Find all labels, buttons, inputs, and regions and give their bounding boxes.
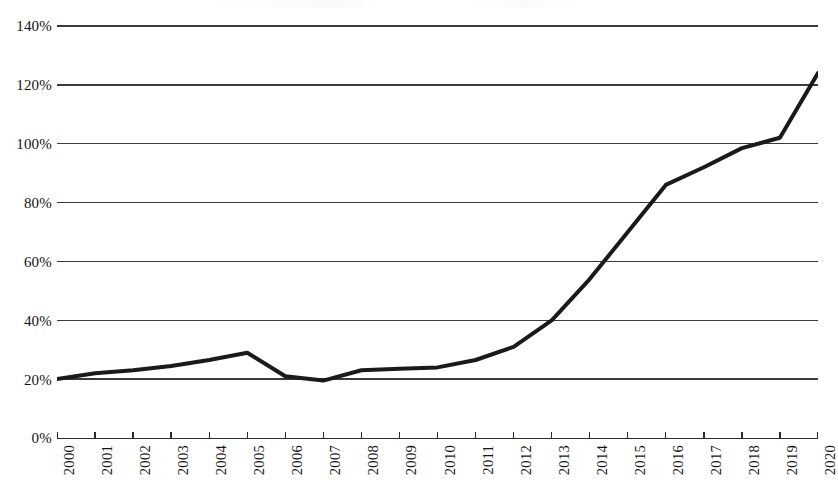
x-axis-tick-label-text: 2011 [481,445,496,475]
x-axis-tick-label: 2017 [709,445,724,475]
x-axis-tick-label: 2000 [62,445,77,475]
x-axis-tick-label: 2009 [404,445,419,475]
y-axis-tick-labels: 140% 120% 100% 80% 60% 40% 20% 0% [0,0,52,498]
x-axis-tick-labels: 2000200120022003200420052006200720082009… [57,441,818,498]
x-axis-tick-label: 2003 [176,445,191,475]
x-axis-tick-label-text: 2014 [595,445,610,475]
x-axis-tick-label-text: 2020 [823,445,838,475]
x-axis-tick-label: 2015 [633,445,648,475]
x-axis-tick-label-text: 2008 [366,445,381,475]
x-axis-tick-label-text: 2009 [404,445,419,475]
x-axis-line [57,20,818,440]
scan-artifact [200,0,650,8]
y-axis-tick-label: 120% [4,78,52,93]
x-axis-tick-label-text: 2006 [290,445,305,475]
x-axis-tick-label: 2007 [328,445,343,475]
x-axis-tick-label: 2019 [785,445,800,475]
x-axis-tick-label: 2002 [138,445,153,475]
x-axis-tick-label: 2013 [557,445,572,475]
y-axis-tick-label: 40% [4,314,52,329]
plot-area [57,20,818,440]
y-axis-tick-label: 0% [4,431,52,446]
x-axis-tick-label-text: 2010 [443,445,458,475]
x-axis-tick-label-text: 2012 [519,445,534,475]
x-axis-tick-label-text: 2018 [747,445,762,475]
x-axis-tick-label-text: 2019 [785,445,800,475]
x-axis-tick-label: 2008 [366,445,381,475]
y-axis-tick-label: 60% [4,255,52,270]
x-axis-tick-label-text: 2015 [633,445,648,475]
x-axis-tick-label: 2016 [671,445,686,475]
y-axis-tick-label: 80% [4,196,52,211]
x-axis-tick-label: 2004 [214,445,229,475]
x-axis-tick-label-text: 2017 [709,445,724,475]
x-axis-tick-label-text: 2002 [138,445,153,475]
x-axis-tick-label-text: 2016 [671,445,686,475]
x-axis-tick-label: 2020 [823,445,838,475]
x-axis-tick-label-text: 2004 [214,445,229,475]
x-axis-tick-label: 2010 [443,445,458,475]
y-axis-tick-label: 140% [4,19,52,34]
x-axis-tick-label: 2012 [519,445,534,475]
x-axis-tick-label-text: 2013 [557,445,572,475]
x-axis-tick-label: 2001 [100,445,115,475]
x-axis-tick-label-text: 2007 [328,445,343,475]
x-axis-tick-label: 2011 [481,445,496,475]
x-axis-tick-label: 2014 [595,445,610,475]
x-axis-tick-label-text: 2005 [252,445,267,475]
x-axis-tick-label: 2006 [290,445,305,475]
x-axis-tick-label-text: 2001 [100,445,115,475]
x-axis-tick-label: 2005 [252,445,267,475]
x-axis-tick-label-text: 2003 [176,445,191,475]
x-axis-tick-label-text: 2000 [62,445,77,475]
x-axis-tick-label: 2018 [747,445,762,475]
y-axis-tick-label: 100% [4,137,52,152]
y-axis-tick-label: 20% [4,373,52,388]
